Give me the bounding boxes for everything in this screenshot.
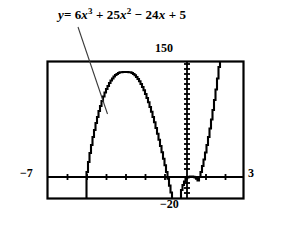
plot-canvas (0, 0, 285, 225)
graph-figure: y= 6x3 + 25x2 − 24x + 5 150 −20 −7 3 (0, 0, 285, 225)
